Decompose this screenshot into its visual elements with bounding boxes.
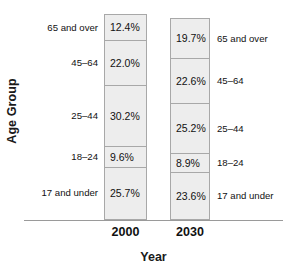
category-label-17-and-under-left: 17 and under <box>41 188 98 198</box>
segment-value-2000-18-24: 9.6% <box>105 152 134 163</box>
segment-2030-25-44[interactable]: 25.2% 25–44 <box>171 104 209 154</box>
category-label-25-44-right: 25–44 <box>217 124 244 134</box>
x-tick-label-2000: 2000 <box>104 225 147 239</box>
segment-value-2000-45-64: 22.0% <box>105 58 140 69</box>
x-axis-line <box>24 220 283 221</box>
segment-2000-45-64[interactable]: 45–64 22.0% <box>105 41 146 86</box>
x-tick-label-2030: 2030 <box>170 225 210 239</box>
segment-2000-65-and-over[interactable]: 65 and over 12.4% <box>105 15 146 41</box>
segment-value-2000-25-44: 30.2% <box>105 111 140 122</box>
category-label-65-and-over-left: 65 and over <box>47 23 98 33</box>
segment-2030-45-64[interactable]: 22.6% 45–64 <box>171 59 209 104</box>
y-axis-title: Age Group <box>0 0 24 221</box>
category-label-45-64-right: 45–64 <box>217 76 244 86</box>
segment-value-2000-17-and-under: 25.7% <box>105 188 140 199</box>
bar-stack-2030: 19.7% 65 and over 22.6% 45–64 25.2% 25–4… <box>170 18 210 220</box>
bar-2030[interactable]: 19.7% 65 and over 22.6% 45–64 25.2% 25–4… <box>170 18 210 220</box>
category-label-25-44-left: 25–44 <box>71 111 98 121</box>
segment-2000-17-and-under[interactable]: 17 and under 25.7% <box>105 168 146 219</box>
segment-value-2030-17-and-under: 23.6% <box>171 191 206 202</box>
segment-2000-25-44[interactable]: 25–44 30.2% <box>105 86 146 147</box>
category-label-18-24-left: 18–24 <box>71 152 98 162</box>
category-label-65-and-over-right: 65 and over <box>217 34 268 44</box>
category-label-18-24-right: 18–24 <box>217 158 244 168</box>
segment-2030-65-and-over[interactable]: 19.7% 65 and over <box>171 19 209 59</box>
segment-value-2030-65-and-over: 19.7% <box>171 33 206 44</box>
bar-2000[interactable]: 65 and over 12.4% 45–64 22.0% 25–44 30.2… <box>104 14 147 220</box>
segment-value-2030-25-44: 25.2% <box>171 123 206 134</box>
segment-value-2030-45-64: 22.6% <box>171 76 206 87</box>
category-label-45-64-left: 45–64 <box>71 58 98 68</box>
stacked-bar-chart: Age Group 65 and over 12.4% 45–64 22.0% … <box>0 0 283 273</box>
bar-stack-2000: 65 and over 12.4% 45–64 22.0% 25–44 30.2… <box>104 14 147 220</box>
x-axis-title: Year <box>24 250 283 264</box>
segment-2030-17-and-under[interactable]: 23.6% 17 and under <box>171 173 209 219</box>
segment-value-2030-18-24: 8.9% <box>171 158 200 169</box>
segment-2030-18-24[interactable]: 8.9% 18–24 <box>171 154 209 172</box>
segment-2000-18-24[interactable]: 18–24 9.6% <box>105 147 146 167</box>
category-label-17-and-under-right: 17 and under <box>217 191 274 201</box>
segment-value-2000-65-and-over: 12.4% <box>105 22 140 33</box>
y-axis-title-text: Age Group <box>5 78 19 143</box>
plot-area: 65 and over 12.4% 45–64 22.0% 25–44 30.2… <box>24 0 283 221</box>
